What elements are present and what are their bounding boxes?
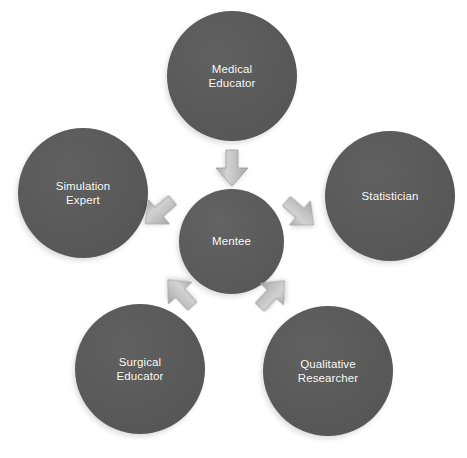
node-statistician[interactable]: Statistician xyxy=(325,131,455,261)
node-medical-educator-label: Medical Educator xyxy=(203,62,262,91)
node-surgical-educator[interactable]: Surgical Educator xyxy=(75,304,205,434)
node-simulation-expert-label: Simulation Expert xyxy=(50,179,117,208)
arrow-down-icon xyxy=(215,149,249,187)
node-mentee-label: Mentee xyxy=(206,234,257,249)
diagram-canvas: Medical Educator Simulation Expert Stati… xyxy=(0,0,467,458)
node-qualitative-researcher-label: Qualitative Researcher xyxy=(292,357,364,386)
node-medical-educator[interactable]: Medical Educator xyxy=(167,11,297,141)
node-surgical-educator-label: Surgical Educator xyxy=(111,355,170,384)
node-simulation-expert[interactable]: Simulation Expert xyxy=(18,128,148,258)
node-statistician-label: Statistician xyxy=(356,189,425,204)
node-qualitative-researcher[interactable]: Qualitative Researcher xyxy=(263,306,393,436)
